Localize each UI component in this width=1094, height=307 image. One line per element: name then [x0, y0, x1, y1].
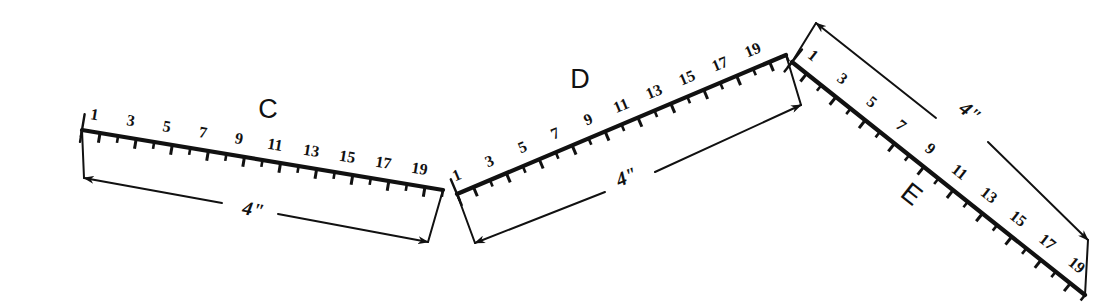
ruler-tick: [830, 97, 836, 105]
witness-line-start-D: [457, 194, 475, 243]
ruler-tick: [473, 187, 477, 196]
ruler-number: 1: [89, 105, 100, 123]
ruler-tick: [506, 173, 510, 182]
ruler-tick: [207, 151, 209, 161]
ruler-number: 7: [198, 123, 209, 141]
ruler-tick: [638, 118, 642, 127]
dimension-D: 4": [457, 55, 801, 243]
ruler-segment-D: 135791113151719D4": [449, 39, 801, 243]
ruler-tick: [1035, 260, 1041, 268]
ruler-number: 15: [676, 67, 697, 89]
ruler-number: 3: [482, 152, 496, 171]
ruler-tick: [1022, 248, 1026, 253]
ruler-tick: [737, 76, 741, 85]
segment-label-C: C: [258, 94, 278, 124]
ruler-tick: [334, 172, 335, 179]
ruler-number: 5: [864, 93, 881, 111]
ruler-tick: [947, 190, 953, 198]
ruler-number: 15: [1007, 207, 1030, 230]
ruler-tick: [993, 225, 997, 230]
ruler-number: 11: [611, 95, 632, 117]
ruler-number: 9: [922, 139, 939, 157]
ruler-tick: [135, 139, 137, 149]
ruler-number: 7: [548, 124, 562, 143]
dimension-line-right-E: [988, 142, 1088, 240]
ruler-tick: [423, 187, 425, 197]
dimension-E: 4": [792, 23, 1088, 295]
ruler-tick: [572, 145, 576, 154]
ruler-chain-svg: 135791113151719C4"135791113151719D4"1357…: [0, 0, 1094, 307]
ruler-segment-C: 135791113151719C4": [80, 94, 443, 242]
ruler-number: 1: [805, 46, 822, 64]
ruler-number: 15: [338, 147, 357, 166]
dimension-text-C: 4": [240, 196, 266, 222]
ruler-tick: [387, 181, 389, 191]
ruler-number: 17: [1036, 230, 1059, 253]
ruler-tick: [976, 213, 982, 221]
ruler-tick: [1006, 237, 1012, 245]
ruler-number: 5: [515, 138, 529, 157]
dimension-line-right-C: [278, 214, 428, 242]
ruler-number: 11: [949, 160, 971, 183]
ruler-tick: [817, 85, 821, 90]
ruler-number: 9: [234, 129, 245, 147]
ruler-tick: [117, 136, 118, 143]
ruler-tick: [225, 154, 226, 161]
ruler-tick: [918, 167, 924, 175]
dimension-line-left-E: [816, 23, 936, 118]
ruler-tick: [905, 155, 909, 160]
ruler-tick: [800, 74, 806, 82]
ruler-number: 5: [162, 117, 173, 135]
ruler-tick: [846, 109, 850, 114]
ruler-tick: [859, 120, 865, 128]
ruler-number: 7: [893, 116, 910, 134]
generated-geometry: 135791113151719C4"135791113151719D4"1357…: [80, 23, 1089, 300]
ruler-number: 9: [581, 110, 595, 129]
ruler-tick: [297, 166, 298, 173]
ruler-tick: [605, 131, 609, 140]
witness-line-end-E: [1085, 240, 1088, 295]
ruler-tick: [189, 148, 190, 155]
ruler-number: 13: [643, 80, 664, 102]
ruler-tick: [1051, 272, 1055, 277]
ruler-tick: [1064, 283, 1070, 291]
ruler-tick: [370, 178, 371, 185]
dimension-line-left-C: [84, 178, 222, 203]
ruler-tick: [406, 184, 407, 191]
segment-label-D: D: [570, 64, 590, 94]
ruler-tick: [770, 62, 774, 71]
ruler-tick: [876, 132, 880, 137]
ruler-tick: [243, 157, 245, 167]
ruler-number: 19: [410, 159, 429, 178]
ruler-tick: [171, 145, 173, 155]
dimension-text-D: 4": [611, 162, 640, 191]
ruler-tick: [261, 160, 262, 167]
ruler-tick: [1081, 295, 1085, 300]
ruler-tick: [888, 144, 894, 152]
ruler-tick: [704, 90, 708, 99]
ruler-number: 3: [834, 69, 851, 87]
ruler-tick: [351, 175, 353, 185]
ruler-segment-E: 135791113151719E4": [785, 23, 1089, 300]
ruler-tick: [539, 159, 543, 168]
ruler-number: 13: [978, 183, 1001, 206]
witness-line-end-C: [428, 190, 443, 242]
ruler-number: 19: [1065, 253, 1088, 276]
ruler-tick: [934, 179, 938, 184]
ruler-number: 13: [302, 141, 321, 160]
drawing-canvas: 135791113151719C4"135791113151719D4"1357…: [0, 0, 1094, 307]
ruler-number: 3: [125, 111, 136, 129]
segment-label-E: E: [895, 177, 928, 212]
witness-line-start-C: [82, 130, 84, 178]
ruler-tick: [153, 142, 154, 149]
ruler-tick: [98, 133, 100, 143]
ruler-tick: [279, 163, 281, 173]
ruler-tick: [671, 104, 675, 113]
ruler-number: 17: [374, 153, 393, 172]
ruler-tick: [963, 202, 967, 207]
ruler-number: 19: [742, 39, 763, 61]
ruler-number: 17: [709, 53, 730, 75]
dimension-text-E: 4": [954, 96, 985, 127]
ruler-number: 11: [266, 135, 284, 154]
dimension-line-right-D: [655, 105, 801, 172]
